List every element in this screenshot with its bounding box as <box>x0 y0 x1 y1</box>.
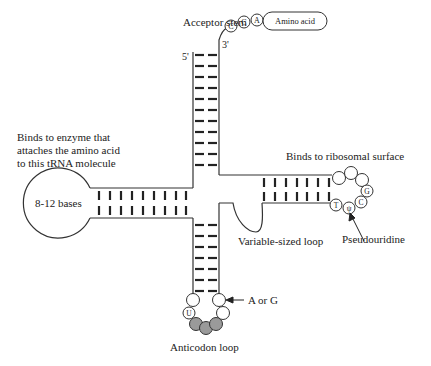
d-arm-desc-line2: attaches the amino acid <box>17 144 120 156</box>
d-arm-base-pairs <box>99 191 186 215</box>
three-prime-label: 3' <box>222 39 229 50</box>
t-loop-base-t: T <box>334 201 339 210</box>
d-loop-label: 8-12 bases <box>35 197 82 209</box>
amino-acid-label: Amino acid <box>275 16 316 26</box>
five-prime-label: 5' <box>182 51 189 62</box>
pseudouridine-label: Pseudouridine <box>342 233 405 245</box>
a-or-g-arrow-head <box>226 297 233 303</box>
anticodon-base-pairs <box>195 225 217 291</box>
a-or-g-label: A or G <box>248 294 278 306</box>
cca-base-3: A <box>254 16 260 25</box>
pseudouridine-arrow-head <box>349 213 355 221</box>
anticodon-loop-label: Anticodon loop <box>170 341 239 353</box>
t-arm-base-pairs <box>264 178 329 201</box>
variable-loop <box>219 203 262 232</box>
variable-loop-label: Variable-sized loop <box>238 235 324 247</box>
t-arm-desc-label: Binds to ribosomal surface <box>286 150 404 162</box>
acceptor-base-pairs <box>195 55 217 165</box>
t-loop-base-g: G <box>364 187 370 196</box>
anticodon-base-u: U <box>186 309 192 318</box>
t-loop-base-c: C <box>358 198 363 207</box>
acceptor-stem-label: Acceptor stem <box>183 16 247 28</box>
d-arm-desc-line1: Binds to enzyme that <box>17 131 110 143</box>
d-arm-desc-line3: to this tRNA molecule <box>17 157 116 169</box>
trna-diagram: C C A Amino acid G C ψ T U Acceptor stem… <box>0 0 431 366</box>
t-loop-base-psi: ψ <box>347 204 352 213</box>
